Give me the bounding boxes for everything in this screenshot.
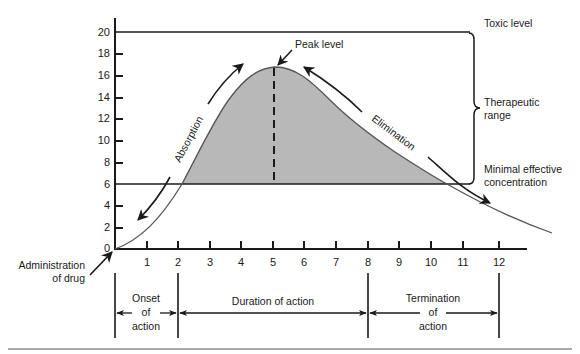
svg-text:Duration of action: Duration of action (232, 295, 314, 307)
svg-text:12: 12 (98, 112, 110, 124)
phase-duration: Duration of action (180, 295, 366, 313)
svg-text:action: action (132, 320, 160, 332)
mec-label: Minimal effective (484, 163, 562, 175)
svg-text:18: 18 (98, 47, 110, 59)
svg-text:10: 10 (98, 134, 110, 146)
svg-text:4: 4 (104, 199, 110, 211)
svg-text:0: 0 (104, 242, 110, 254)
therapeutic-range-brace (469, 33, 480, 184)
svg-text:14: 14 (98, 91, 110, 103)
svg-text:8: 8 (365, 256, 371, 268)
svg-text:7: 7 (333, 256, 339, 268)
svg-text:5: 5 (270, 256, 276, 268)
x-ticks (147, 241, 499, 249)
svg-text:8: 8 (104, 156, 110, 168)
toxic-level-label: Toxic level (484, 17, 532, 29)
svg-text:action: action (419, 320, 447, 332)
svg-text:of: of (142, 306, 151, 318)
peak-level-label: Peak level (295, 38, 343, 50)
svg-text:9: 9 (396, 256, 402, 268)
administration-arrow-icon (90, 252, 112, 275)
peak-arrow-icon (278, 50, 292, 65)
svg-text:11: 11 (457, 256, 468, 268)
svg-text:6: 6 (104, 178, 110, 190)
svg-text:6: 6 (301, 256, 307, 268)
therapeutic-range-label: Therapeutic (484, 96, 539, 108)
administration-label: Administration (18, 259, 85, 271)
svg-text:Termination: Termination (406, 292, 460, 304)
svg-text:1: 1 (144, 256, 150, 268)
therapeutic-range-label-2: range (484, 109, 511, 121)
mec-label-2: concentration (484, 176, 547, 188)
phase-onset: Onset of action (117, 292, 176, 332)
svg-text:16: 16 (98, 69, 110, 81)
svg-text:2: 2 (104, 221, 110, 233)
administration-label-2: of drug (52, 272, 85, 284)
svg-text:4: 4 (238, 256, 244, 268)
phase-termination: Termination of action (370, 292, 497, 332)
svg-text:of: of (429, 306, 438, 318)
svg-text:10: 10 (425, 256, 437, 268)
svg-text:3: 3 (207, 256, 213, 268)
svg-text:12: 12 (493, 256, 505, 268)
y-tick-labels: 0 2 4 6 8 10 12 14 16 18 20 (98, 26, 110, 254)
svg-text:Onset: Onset (132, 292, 160, 304)
svg-text:20: 20 (98, 26, 110, 38)
svg-text:2: 2 (175, 256, 181, 268)
x-tick-labels: 1 2 3 4 5 6 7 8 9 10 11 12 (144, 256, 505, 268)
y-ticks (115, 54, 123, 228)
pharmacokinetics-diagram: 0 2 4 6 8 10 12 14 16 18 20 1 2 3 4 5 6 … (0, 0, 580, 354)
